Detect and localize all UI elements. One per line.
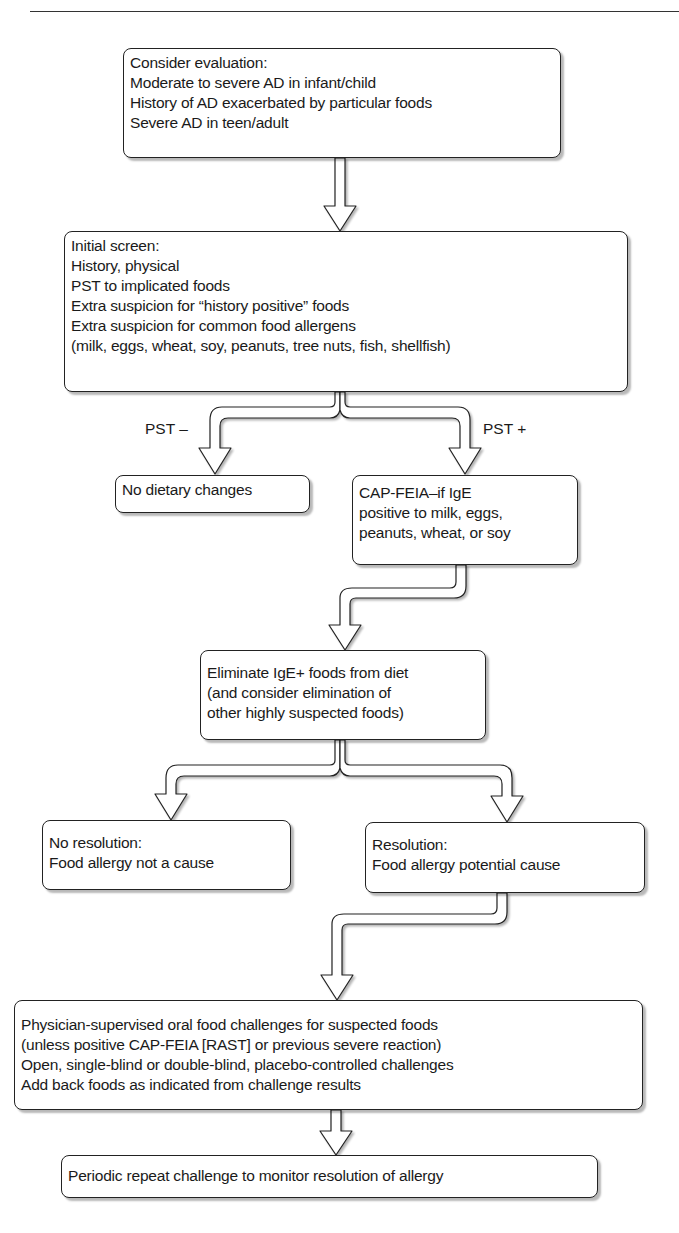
node-text: No dietary changes: [122, 480, 303, 500]
arrow-eliminate-to-resolution: [340, 740, 523, 822]
node-text: other highly suspected foods): [207, 703, 479, 723]
edge-label-pst-negative: PST –: [145, 420, 188, 438]
node-eliminate-foods: Eliminate IgE+ foods from diet (and cons…: [200, 650, 486, 740]
node-text: Consider evaluation:: [130, 53, 554, 73]
node-periodic-repeat-challenge: Periodic repeat challenge to monitor res…: [61, 1155, 598, 1198]
node-text: Moderate to severe AD in infant/child: [130, 73, 554, 93]
node-text: Food allergy not a cause: [49, 853, 284, 873]
node-oral-food-challenges: Physician-supervised oral food challenge…: [14, 1000, 643, 1110]
node-text: Eliminate IgE+ foods from diet: [207, 663, 479, 683]
node-text: Open, single-blind or double-blind, plac…: [21, 1055, 636, 1075]
node-text: peanuts, wheat, or soy: [359, 523, 571, 543]
arrow-eliminate-to-no-resolution: [155, 740, 340, 820]
node-text: No resolution:: [49, 833, 284, 853]
node-text: Add back foods as indicated from challen…: [21, 1075, 636, 1095]
node-text: Periodic repeat challenge to monitor res…: [68, 1166, 591, 1186]
node-text: Resolution:: [372, 835, 638, 855]
node-text: positive to milk, eggs,: [359, 503, 571, 523]
edge-label-pst-positive: PST +: [483, 420, 526, 438]
node-text: History of AD exacerbated by particular …: [130, 93, 554, 113]
node-text: (and consider elimination of: [207, 683, 479, 703]
arrow-initial-to-cap-feia: [340, 392, 481, 474]
node-text: CAP-FEIA–if IgE: [359, 483, 571, 503]
arrow-consider-to-initial: [324, 158, 356, 231]
node-text: (unless positive CAP-FEIA [RAST] or prev…: [21, 1035, 636, 1055]
node-text: History, physical: [71, 256, 621, 276]
node-text: Food allergy potential cause: [372, 855, 638, 875]
node-text: Extra suspicion for “history positive” f…: [71, 296, 621, 316]
node-text: Extra suspicion for common food allergen…: [71, 316, 621, 336]
node-text: Severe AD in teen/adult: [130, 113, 554, 133]
node-text: (milk, eggs, wheat, soy, peanuts, tree n…: [71, 336, 621, 356]
node-no-dietary-changes: No dietary changes: [115, 475, 310, 513]
node-resolution: Resolution: Food allergy potential cause: [365, 822, 645, 893]
arrow-resolution-to-challenges: [321, 893, 507, 1000]
node-initial-screen: Initial screen: History, physical PST to…: [64, 231, 628, 392]
node-no-resolution: No resolution: Food allergy not a cause: [42, 820, 291, 890]
arrow-challenges-to-periodic: [320, 1110, 352, 1155]
node-consider-evaluation: Consider evaluation: Moderate to severe …: [123, 48, 561, 158]
arrow-cap-to-eliminate: [329, 565, 466, 650]
node-text: Initial screen:: [71, 236, 621, 256]
node-text: PST to implicated foods: [71, 276, 621, 296]
arrow-initial-to-no-dietary: [199, 392, 340, 474]
node-text: Physician-supervised oral food challenge…: [21, 1015, 636, 1035]
node-cap-feia: CAP-FEIA–if IgE positive to milk, eggs, …: [352, 475, 578, 565]
